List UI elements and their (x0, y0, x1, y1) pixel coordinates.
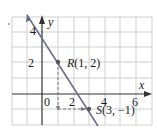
point-s (87, 107, 91, 111)
coordinate-plot: y x 4 2 0 2 4 6 R(1, 2) S(3, −1) (0, 0, 157, 129)
y-tick-2: 2 (28, 56, 34, 70)
point-r-label: R(1, 2) (66, 56, 100, 70)
x-axis-label: x (138, 78, 145, 92)
y-axis-label: y (47, 15, 54, 29)
x-tick-2: 2 (69, 95, 75, 109)
x-axis-arrow-icon (144, 91, 152, 97)
y-axis-arrow-icon (39, 15, 45, 24)
origin-label: 0 (44, 95, 50, 109)
stray-dot (8, 23, 10, 25)
y-tick-4: 4 (30, 24, 36, 38)
guide-arrow-right-icon (81, 107, 86, 111)
point-r (56, 60, 60, 64)
point-s-label: S(3, −1) (96, 103, 135, 117)
